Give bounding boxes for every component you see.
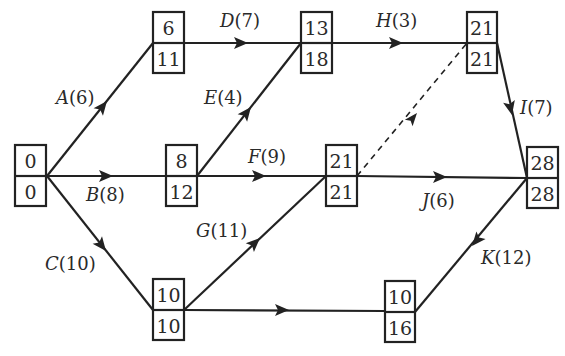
- node-early-time: 21: [329, 150, 353, 172]
- node-late-time: 12: [169, 181, 193, 203]
- label-b: B(8): [85, 184, 125, 205]
- edge-d: [184, 37, 301, 49]
- label-j: J(6): [418, 190, 455, 211]
- edge-h: [332, 37, 467, 49]
- node-early-time: 21: [470, 17, 494, 39]
- label-h: H(3): [375, 10, 417, 31]
- edge-n5-n8: [184, 304, 385, 316]
- label-k: K(12): [480, 247, 531, 268]
- edge-f: [197, 170, 326, 182]
- node-n0: 0 0: [15, 145, 46, 206]
- node-late-time: 11: [156, 48, 180, 70]
- node-early-time: 8: [175, 150, 187, 172]
- label-f: F(9): [247, 146, 286, 167]
- node-late-time: 10: [156, 315, 180, 337]
- label-g: G(11): [196, 220, 247, 241]
- node-n2: 8 12: [166, 145, 197, 206]
- node-late-time: 21: [470, 48, 494, 70]
- label-i: I(7): [519, 97, 553, 118]
- label-c: C(10): [45, 253, 96, 274]
- node-late-time: 16: [388, 317, 412, 339]
- node-early-time: 0: [24, 150, 36, 172]
- node-early-time: 10: [388, 286, 412, 308]
- edge-b: [47, 170, 166, 182]
- label-d: D(7): [219, 10, 260, 31]
- node-late-time: 18: [304, 48, 328, 70]
- node-early-time: 10: [156, 284, 180, 306]
- node-n8: 10 16: [385, 281, 415, 342]
- arrowhead-icon: [405, 110, 421, 126]
- edge-dummy: [357, 43, 467, 176]
- node-n6: 21 21: [326, 145, 357, 206]
- edge-j: [357, 171, 527, 183]
- node-early-time: 6: [162, 17, 174, 39]
- node-n7: 28 28: [527, 147, 558, 208]
- node-n4: 21 21: [467, 12, 497, 73]
- edge-a: [47, 43, 153, 176]
- node-early-time: 28: [530, 152, 554, 174]
- node-late-time: 21: [329, 181, 353, 203]
- edge-g: [184, 176, 326, 310]
- label-e: E(4): [203, 87, 243, 108]
- node-late-time: 0: [24, 181, 36, 203]
- node-early-time: 13: [304, 17, 328, 39]
- node-late-time: 28: [530, 183, 554, 205]
- node-n3: 13 18: [301, 12, 332, 73]
- node-n1: 6 11: [153, 12, 184, 73]
- label-a: A(6): [54, 87, 95, 108]
- network-diagram: A(6) B(8) C(10) D(7) E(4) F(9) G(11) H(3…: [0, 0, 565, 356]
- node-n5: 10 10: [153, 279, 184, 340]
